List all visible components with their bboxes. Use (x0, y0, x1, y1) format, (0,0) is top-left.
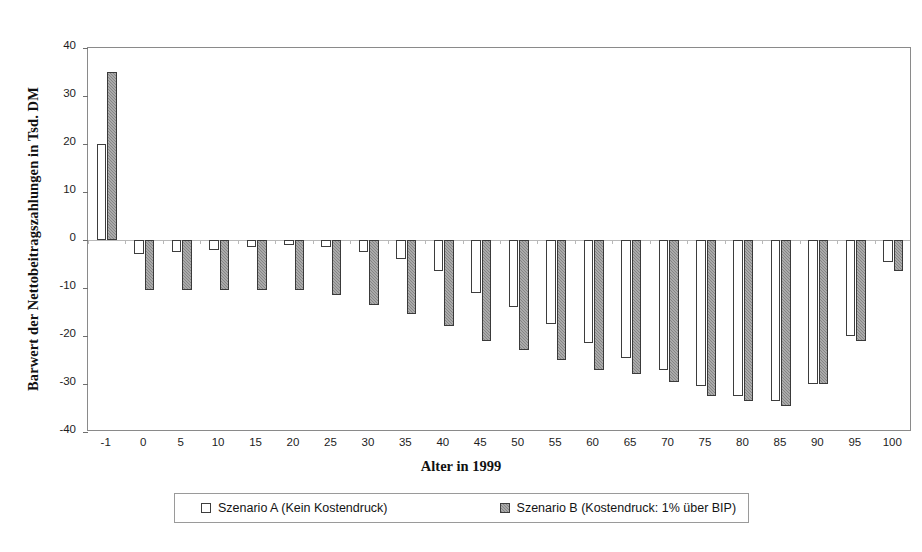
y-axis-tick (83, 48, 88, 49)
bar-szenario-a-55 (546, 240, 556, 324)
bar-szenario-a-5 (172, 240, 182, 252)
y-axis-tick-label: 10 (0, 183, 76, 195)
bar-szenario-a-35 (396, 240, 406, 259)
x-axis-tick (837, 240, 838, 244)
x-axis-tick-label: 95 (835, 436, 875, 448)
x-axis-tick-label: 55 (535, 436, 575, 448)
x-axis-tick (650, 240, 651, 244)
x-axis-tick (350, 240, 351, 244)
bar-szenario-b-50 (519, 240, 529, 350)
bar-szenario-a-100 (883, 240, 893, 262)
bar-szenario-a-60 (584, 240, 594, 343)
y-axis-tick-label: -20 (0, 327, 76, 339)
x-axis-tick (313, 240, 314, 244)
bar-szenario-b-0 (145, 240, 155, 290)
x-axis-tick-label: 70 (648, 436, 688, 448)
legend-swatch-szenario-b (500, 503, 510, 513)
bar-szenario-a-50 (509, 240, 519, 307)
x-axis-tick (800, 240, 801, 244)
x-axis-tick-label: 75 (685, 436, 725, 448)
x-axis-tick-label: 35 (385, 436, 425, 448)
bar-szenario-b-5 (182, 240, 192, 290)
legend-swatch-szenario-a (201, 503, 211, 513)
x-axis-tick (200, 240, 201, 244)
x-axis-tick-label: 60 (573, 436, 613, 448)
bar-szenario-b-60 (594, 240, 604, 370)
bar-szenario-b-30 (369, 240, 379, 305)
bar-szenario-a-40 (434, 240, 444, 271)
bar-szenario-b-65 (632, 240, 642, 374)
x-axis-tick (275, 240, 276, 244)
y-axis-tick (83, 144, 88, 145)
bar-szenario-a-95 (846, 240, 856, 336)
y-axis-tick-label: -10 (0, 279, 76, 291)
bar-szenario-a-20 (284, 240, 294, 245)
x-axis-tick (612, 240, 613, 244)
bar-szenario-b-20 (295, 240, 305, 290)
x-axis-tick (575, 240, 576, 244)
chart-legend: Szenario A (Kein Kostendruck) Szenario B… (174, 493, 749, 523)
x-axis-tick-label: 20 (273, 436, 313, 448)
y-axis-tick-label: 0 (0, 231, 76, 243)
bar-szenario-b-95 (856, 240, 866, 341)
x-axis-tick (238, 240, 239, 244)
bar-szenario-a-90 (808, 240, 818, 384)
bar-szenario-a-30 (359, 240, 369, 252)
y-axis-tick-label: -40 (0, 423, 76, 435)
x-axis-tick-label: 45 (460, 436, 500, 448)
bar-szenario-b-15 (257, 240, 267, 290)
bar-szenario-b-55 (557, 240, 567, 360)
x-axis-tick-label: 40 (423, 436, 463, 448)
x-axis-tick (163, 240, 164, 244)
bar-szenario-a-70 (659, 240, 669, 370)
x-axis-tick (388, 240, 389, 244)
x-axis-tick (875, 240, 876, 244)
bar-szenario-a-10 (209, 240, 219, 250)
bar-szenario-b-75 (707, 240, 717, 396)
x-axis-tick-label: 90 (797, 436, 837, 448)
bar-szenario-b-70 (669, 240, 679, 382)
bar-szenario-b-40 (444, 240, 454, 326)
x-axis-tick-label: 10 (198, 436, 238, 448)
legend-item-szenario-a: Szenario A (Kein Kostendruck) (201, 501, 388, 515)
bar-szenario-b-45 (482, 240, 492, 341)
bar-szenario-a-0 (134, 240, 144, 254)
y-axis-tick-label: 20 (0, 135, 76, 147)
bar-szenario-b-90 (819, 240, 829, 384)
y-axis-tick-label: 40 (0, 39, 76, 51)
bar-szenario-b--1 (107, 72, 117, 240)
bar-szenario-a-25 (321, 240, 331, 247)
y-axis-tick (83, 432, 88, 433)
x-axis-tick (88, 240, 89, 244)
bar-szenario-a-75 (696, 240, 706, 386)
legend-item-szenario-b: Szenario B (Kostendruck: 1% über BIP) (500, 501, 737, 515)
x-axis-tick-label: 100 (872, 436, 912, 448)
bar-szenario-a-45 (471, 240, 481, 293)
bar-szenario-a-15 (247, 240, 257, 247)
legend-label-szenario-a: Szenario A (Kein Kostendruck) (218, 501, 388, 515)
x-axis-tick (425, 240, 426, 244)
bar-szenario-b-10 (220, 240, 230, 290)
x-axis-tick-label: 0 (123, 436, 163, 448)
bar-szenario-a-85 (771, 240, 781, 401)
x-axis-tick-label: 50 (498, 436, 538, 448)
x-axis-tick (687, 240, 688, 244)
y-axis-tick-label: 30 (0, 87, 76, 99)
bar-szenario-b-80 (744, 240, 754, 401)
x-axis-tick-label: 5 (161, 436, 201, 448)
x-axis-tick-label: -1 (86, 436, 126, 448)
bar-szenario-b-25 (332, 240, 342, 295)
bar-szenario-b-100 (894, 240, 904, 271)
y-axis-tick (83, 288, 88, 289)
x-axis-tick-label: 15 (236, 436, 276, 448)
bar-szenario-a-80 (733, 240, 743, 396)
x-axis-tick-label: 30 (348, 436, 388, 448)
bar-chart-figure: Barwert der Nettobeitragszahlungen in Ts… (0, 0, 922, 552)
y-axis-tick (83, 384, 88, 385)
x-axis-tick (125, 240, 126, 244)
y-axis-tick (83, 192, 88, 193)
bar-szenario-a--1 (97, 144, 107, 240)
y-axis-tick (83, 96, 88, 97)
legend-label-szenario-b: Szenario B (Kostendruck: 1% über BIP) (517, 501, 737, 515)
bar-szenario-b-35 (407, 240, 417, 314)
